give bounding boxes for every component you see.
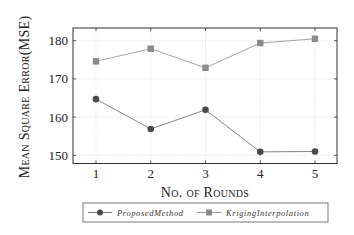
y-tick-label: 170 [49, 71, 69, 86]
circle-marker-icon [97, 210, 103, 216]
legend: ProposedMethod KrigingInterpolation [83, 203, 328, 222]
y-tick-label: 160 [49, 110, 69, 125]
y-tick-label: 180 [49, 33, 69, 48]
line-chart: 150160170180 12345 No. of Rounds Mean Sq… [0, 0, 354, 235]
circle-marker-icon [147, 126, 154, 133]
x-axis-title: No. of Rounds [161, 185, 249, 200]
square-marker-icon [206, 210, 212, 216]
square-marker-icon [148, 46, 154, 52]
y-axis-title: Mean Square Error(MSE) [17, 16, 33, 179]
y-tick-label: 150 [49, 148, 69, 163]
y-axis-ticks: 150160170180 [49, 33, 338, 163]
legend-label: ProposedMethod [116, 208, 184, 218]
square-marker-icon [202, 65, 208, 71]
circle-marker-icon [257, 149, 264, 156]
x-tick-label: 5 [312, 166, 319, 181]
x-tick-label: 4 [257, 166, 264, 181]
circle-marker-icon [202, 107, 209, 114]
square-marker-icon [257, 40, 263, 46]
circle-marker-icon [93, 96, 100, 103]
plot-area [73, 28, 337, 164]
legend-label: KrigingInterpolation [225, 208, 309, 218]
grid-lines [73, 28, 337, 164]
circle-marker-icon [312, 148, 319, 155]
x-tick-label: 3 [202, 166, 209, 181]
x-tick-label: 2 [148, 166, 155, 181]
x-tick-label: 1 [93, 166, 100, 181]
square-marker-icon [93, 58, 99, 64]
square-marker-icon [312, 36, 318, 42]
